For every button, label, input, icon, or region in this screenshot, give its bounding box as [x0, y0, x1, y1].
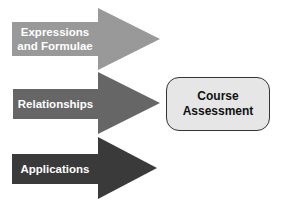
course-assessment-box: Course Assessment	[166, 77, 270, 131]
arrow-label-expressions: Expressions and Formulae	[12, 25, 98, 53]
label-line: Expressions	[12, 25, 98, 39]
box-line: Assessment	[183, 104, 254, 119]
label-line: and Formulae	[12, 39, 98, 53]
box-line: Course	[197, 89, 238, 104]
arrow-label-relationships: Relationships	[13, 97, 98, 111]
arrow-label-applications: Applications	[12, 162, 98, 176]
label-line: Relationships	[13, 97, 98, 111]
label-line: Applications	[12, 162, 98, 176]
